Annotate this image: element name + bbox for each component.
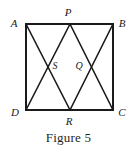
label-b: B xyxy=(119,17,126,29)
label-a: A xyxy=(10,17,18,29)
diagonal-segments xyxy=(26,24,113,110)
label-c: C xyxy=(118,106,126,118)
geometry-diagram: A B C D P R S Q xyxy=(0,0,137,132)
label-d: D xyxy=(10,106,19,118)
figure-container: A B C D P R S Q Figure 5 xyxy=(0,0,137,154)
label-s: S xyxy=(53,60,58,71)
label-q: Q xyxy=(75,60,83,71)
rectangle-abcd xyxy=(26,24,113,110)
figure-caption: Figure 5 xyxy=(0,130,137,146)
label-p: P xyxy=(64,6,72,18)
label-r: R xyxy=(65,115,73,127)
